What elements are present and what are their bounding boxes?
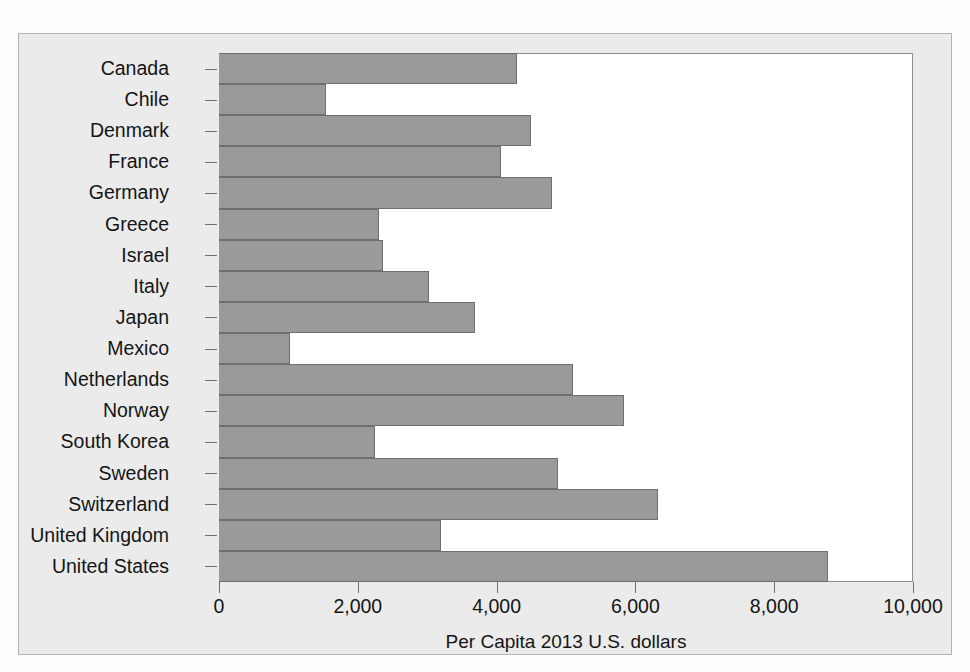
x-tick-mark xyxy=(635,582,636,593)
category-tick xyxy=(205,504,217,505)
category-label: Sweden xyxy=(0,458,169,489)
category-tick xyxy=(205,100,217,101)
category-label: Italy xyxy=(0,271,169,302)
x-tick-label: 4,000 xyxy=(427,595,567,618)
bar xyxy=(219,458,558,489)
bar xyxy=(219,240,383,271)
x-tick-mark xyxy=(219,582,220,593)
x-tick-label: 6,000 xyxy=(565,595,705,618)
bar xyxy=(219,271,429,302)
bar xyxy=(219,53,517,84)
category-label: South Korea xyxy=(0,426,169,457)
bar-row: United Kingdom xyxy=(19,520,951,551)
bar-row: Denmark xyxy=(19,115,951,146)
category-label: Israel xyxy=(0,240,169,271)
bar xyxy=(219,333,290,364)
category-label: Germany xyxy=(0,177,169,208)
bar xyxy=(219,302,475,333)
x-axis-title: Per Capita 2013 U.S. dollars xyxy=(219,631,913,653)
bar-row: France xyxy=(19,146,951,177)
category-label: Chile xyxy=(0,84,169,115)
x-tick-mark xyxy=(358,582,359,593)
x-tick-label: 2,000 xyxy=(288,595,428,618)
category-tick xyxy=(205,255,217,256)
bar xyxy=(219,115,531,146)
x-tick-mark xyxy=(497,582,498,593)
category-label: Netherlands xyxy=(0,364,169,395)
category-tick xyxy=(205,69,217,70)
x-tick-label: 0 xyxy=(149,595,289,618)
category-label: Japan xyxy=(0,302,169,333)
bar-row: Switzerland xyxy=(19,489,951,520)
category-tick xyxy=(205,380,217,381)
x-tick-mark xyxy=(774,582,775,593)
bar-row: Canada xyxy=(19,53,951,84)
bar-row: Chile xyxy=(19,84,951,115)
bar-row: Greece xyxy=(19,209,951,240)
category-tick xyxy=(205,411,217,412)
category-tick xyxy=(205,349,217,350)
x-tick-label: 10,000 xyxy=(843,595,970,618)
bar xyxy=(219,146,501,177)
category-label: United Kingdom xyxy=(0,520,169,551)
bar-row: Sweden xyxy=(19,458,951,489)
bar-row: Netherlands xyxy=(19,364,951,395)
category-label: United States xyxy=(0,551,169,582)
category-tick xyxy=(205,286,217,287)
bar-row: Mexico xyxy=(19,333,951,364)
category-tick xyxy=(205,317,217,318)
bar xyxy=(219,177,552,208)
bar xyxy=(219,364,573,395)
bar-row: Italy xyxy=(19,271,951,302)
bar xyxy=(219,520,441,551)
category-label: Canada xyxy=(0,53,169,84)
bar-row: Israel xyxy=(19,240,951,271)
category-tick xyxy=(205,193,217,194)
bar xyxy=(219,426,375,457)
chart-card: CanadaChileDenmarkFranceGermanyGreeceIsr… xyxy=(18,33,952,655)
bar-row: United States xyxy=(19,551,951,582)
bar-row: Germany xyxy=(19,177,951,208)
category-tick xyxy=(205,566,217,567)
bar-row: South Korea xyxy=(19,426,951,457)
category-label: Mexico xyxy=(0,333,169,364)
category-tick xyxy=(205,224,217,225)
category-label: Norway xyxy=(0,395,169,426)
bar xyxy=(219,489,658,520)
chart-figure: CanadaChileDenmarkFranceGermanyGreeceIsr… xyxy=(0,0,970,672)
bar xyxy=(219,209,379,240)
category-label: Greece xyxy=(0,209,169,240)
category-tick xyxy=(205,473,217,474)
bar xyxy=(219,84,326,115)
bar xyxy=(219,551,828,582)
x-tick-mark xyxy=(913,582,914,593)
category-label: Denmark xyxy=(0,115,169,146)
category-tick xyxy=(205,442,217,443)
x-tick-label: 8,000 xyxy=(704,595,844,618)
category-tick xyxy=(205,162,217,163)
bar xyxy=(219,395,624,426)
category-tick xyxy=(205,131,217,132)
category-tick xyxy=(205,535,217,536)
bar-row: Japan xyxy=(19,302,951,333)
category-label: Switzerland xyxy=(0,489,169,520)
category-label: France xyxy=(0,146,169,177)
bar-row: Norway xyxy=(19,395,951,426)
